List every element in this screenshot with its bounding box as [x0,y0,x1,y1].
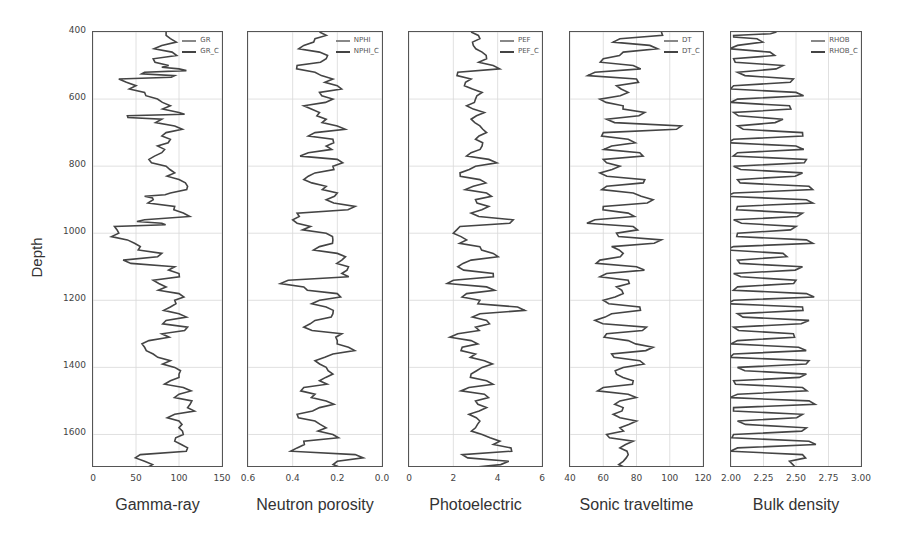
legend-label: NPHI_C [354,46,379,57]
legend-swatch-icon [182,51,196,53]
legend-swatch-icon [811,40,825,42]
legend-swatch-icon [664,40,678,42]
legend-entry: GR [182,35,219,46]
neutron-porosity-legend: NPHINPHI_C [336,35,379,57]
bulk-density-legend: RHOBRHOB_C [811,35,858,57]
legend-entry: DT [664,35,700,46]
gamma-ray-axis-title: Gamma-ray [78,496,238,514]
legend-label: DT_C [682,46,700,57]
sonic-traveltime-tick-label: 80 [622,473,652,483]
gamma-ray-tick-label: 50 [121,473,151,483]
legend-swatch-icon [500,51,514,53]
bulk-density-track: RHOBRHOB_C [730,31,862,467]
neutron-porosity-axis-title: Neutron porosity [235,496,395,514]
depth-tick-label: 1400 [46,360,86,370]
bulk-density-tick-label: 2.75 [814,473,844,483]
gamma-ray-legend: GRGR_C [182,35,219,57]
legend-entry: DT_C [664,46,700,57]
sonic-traveltime-tick-label: 40 [555,473,585,483]
legend-entry: NPHI_C [336,46,379,57]
photoelectric-tick-label: 0 [394,473,424,483]
sonic-traveltime-tick-label: 120 [688,473,718,483]
photoelectric-legend: PEFPEF_C [500,35,539,57]
legend-label: GR [200,35,210,46]
sonic-traveltime-plot [570,32,703,466]
gamma-ray-plot [93,32,222,466]
sonic-traveltime-curve [587,32,682,466]
legend-entry: PEF_C [500,46,539,57]
neutron-porosity-tick-label: 0.4 [278,473,308,483]
neutron-porosity-tick-label: 0.0 [367,473,397,483]
neutron-porosity-tick-label: 0.2 [322,473,352,483]
legend-swatch-icon [336,40,350,42]
neutron-porosity-track: NPHINPHI_C [247,31,383,467]
gamma-ray-tick-label: 100 [164,473,194,483]
bulk-density-tick-label: 2.00 [716,473,746,483]
photoelectric-track: PEFPEF_C [408,31,543,467]
bulk-density-tick-label: 3.00 [846,473,876,483]
depth-axis-label: Depth [28,228,45,288]
gamma-ray-tick-label: 0 [78,473,108,483]
neutron-porosity-plot [248,32,382,466]
photoelectric-axis-title: Photoelectric [396,496,556,514]
bulk-density-axis-title: Bulk density [716,496,876,514]
depth-tick-label: 800 [46,159,86,169]
legend-swatch-icon [664,51,678,53]
sonic-traveltime-axis-title: Sonic traveltime [557,496,717,514]
photoelectric-tick-label: 6 [527,473,557,483]
legend-entry: NPHI [336,35,379,46]
sonic-traveltime-tick-label: 60 [588,473,618,483]
legend-label: PEF [518,35,531,46]
legend-swatch-icon [500,40,514,42]
legend-swatch-icon [811,51,825,53]
photoelectric-tick-label: 2 [438,473,468,483]
depth-tick-label: 1600 [46,427,86,437]
legend-label: RHOB [829,35,849,46]
gamma-ray-curve [112,32,195,466]
bulk-density-tick-label: 2.25 [749,473,779,483]
neutron-porosity-tick-label: 0.6 [233,473,263,483]
legend-entry: PEF [500,35,539,46]
legend-label: NPHI [354,35,371,46]
legend-entry: RHOB [811,35,858,46]
bulk-density-tick-label: 2.50 [781,473,811,483]
legend-entry: RHOB_C [811,46,858,57]
legend-swatch-icon [336,51,350,53]
depth-tick-label: 1000 [46,226,86,236]
photoelectric-tick-label: 4 [483,473,513,483]
sonic-traveltime-track: DTDT_C [569,31,704,467]
depth-tick-label: 600 [46,92,86,102]
legend-label: RHOB_C [829,46,858,57]
bulk-density-plot [731,32,861,466]
photoelectric-plot [409,32,542,466]
bulk-density-curve [731,32,816,466]
photoelectric-curve [447,32,525,466]
sonic-traveltime-legend: DTDT_C [664,35,700,57]
sonic-traveltime-tick-label: 100 [655,473,685,483]
legend-swatch-icon [182,40,196,42]
legend-label: PEF_C [518,46,539,57]
gamma-ray-track: GRGR_C [92,31,223,467]
legend-label: DT [682,35,692,46]
legend-entry: GR_C [182,46,219,57]
legend-label: GR_C [200,46,219,57]
depth-tick-label: 1200 [46,293,86,303]
depth-tick-label: 400 [46,25,86,35]
